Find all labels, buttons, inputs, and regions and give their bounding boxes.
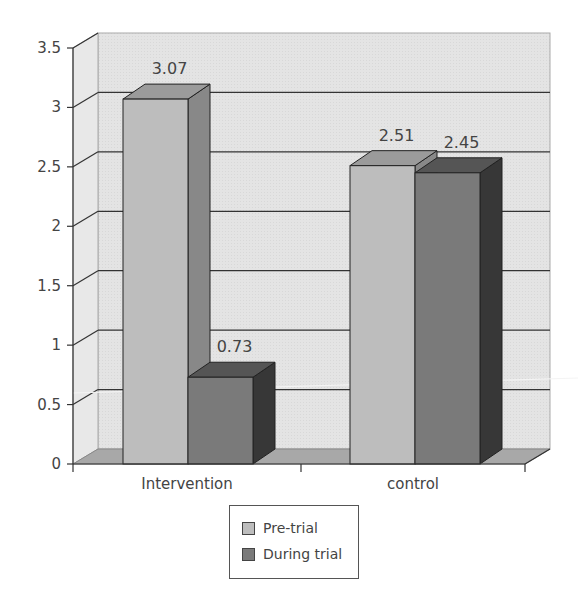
legend-label: During trial [263, 546, 342, 562]
legend-swatch-during-trial [242, 548, 255, 561]
y-tick-label: 3.5 [37, 39, 61, 57]
legend-item-pre-trial: Pre-trial [242, 520, 318, 536]
y-tick-label: 0 [51, 455, 61, 473]
y-tick-label: 2.5 [37, 158, 61, 176]
bar-control-during-trial [415, 158, 502, 464]
legend-label: Pre-trial [263, 520, 318, 536]
data-label: 2.51 [379, 126, 415, 145]
data-label: 3.07 [152, 59, 188, 78]
y-tick-label: 3 [51, 98, 61, 116]
data-label: 0.73 [217, 337, 253, 356]
legend-item-during-trial: During trial [242, 546, 342, 562]
y-tick-label: 0.5 [37, 396, 61, 414]
x-category-label: Intervention [141, 475, 233, 493]
y-tick-label: 2 [51, 217, 61, 235]
y-tick-label: 1.5 [37, 277, 61, 295]
data-label: 2.45 [444, 133, 480, 152]
y-tick-label: 1 [51, 336, 61, 354]
x-category-label: control [387, 475, 439, 493]
legend-swatch-pre-trial [242, 522, 255, 535]
bar-intervention-during-trial [188, 362, 275, 464]
legend: Pre-trial During trial [229, 505, 359, 579]
